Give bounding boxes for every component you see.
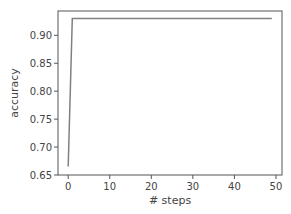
x-tick-label: 30: [186, 181, 199, 192]
accuracy-line: [68, 19, 272, 167]
plot-frame: [58, 11, 282, 175]
y-tick-label: 0.75: [30, 114, 52, 125]
y-tick-label: 0.90: [30, 30, 52, 41]
y-axis-label: accuracy: [8, 68, 21, 118]
x-tick-label: 50: [270, 181, 283, 192]
x-tick-label: 20: [145, 181, 158, 192]
x-axis-label: # steps: [149, 194, 192, 207]
y-tick-label: 0.85: [30, 58, 52, 69]
x-tick-label: 0: [65, 181, 71, 192]
chart-svg: 0.650.700.750.800.850.90 01020304050 # s…: [0, 0, 291, 214]
y-tick-label: 0.70: [30, 142, 52, 153]
y-axis-ticks: 0.650.700.750.800.850.90: [30, 30, 58, 181]
x-tick-label: 10: [103, 181, 116, 192]
x-axis-ticks: 01020304050: [65, 175, 282, 192]
x-tick-label: 40: [228, 181, 241, 192]
accuracy-chart: 0.650.700.750.800.850.90 01020304050 # s…: [0, 0, 291, 214]
y-tick-label: 0.80: [30, 86, 52, 97]
y-tick-label: 0.65: [30, 170, 52, 181]
